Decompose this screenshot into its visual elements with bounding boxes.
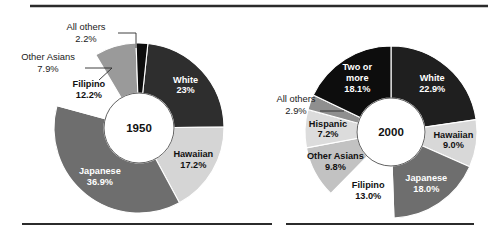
slice-label-other-asians: Other Asians — [307, 151, 364, 161]
slice-label-hispanic: Hispanic — [309, 119, 347, 129]
slice-label-white: 22.9% — [419, 84, 445, 94]
callout-value-other-asians: 7.9% — [37, 63, 58, 74]
donut-charts-svg: 1950White23%Hawaiian17.2%Japanese36.9%Fi… — [0, 0, 496, 233]
slice-label-filipino: 13.0% — [355, 191, 381, 201]
slice-label-japanese: Japanese — [79, 166, 121, 176]
callout-label-all-others: All others — [66, 21, 105, 32]
slice-label-filipino: Filipino — [352, 180, 385, 190]
slice-label-white: White — [420, 73, 445, 83]
slice-label-japanese: 36.9% — [87, 177, 113, 187]
donut-chart-2000: 2000White22.9%Hawaiian9.0%Japanese18.0%F… — [276, 46, 477, 218]
slice-label-hawaiian: 17.2% — [180, 160, 206, 170]
slice-label-japanese: Japanese — [405, 173, 447, 183]
callout-label-all-others: All others — [276, 93, 315, 104]
slice-label-two-or-more: 18.1% — [344, 84, 370, 94]
slice-label-hawaiian: Hawaiian — [433, 130, 473, 140]
callout-label-other-asians: Other Asians — [21, 51, 75, 62]
slice-label-other-asians: 9.8% — [325, 162, 346, 172]
slice-label-white: White — [173, 75, 198, 85]
slice-label-hawaiian: 9.0% — [443, 140, 464, 150]
slice-label-hawaiian: Hawaiian — [173, 149, 213, 159]
donut-center-year: 1950 — [126, 122, 152, 134]
callout-value-all-others: 2.2% — [75, 33, 96, 44]
slice-label-japanese: 18.0% — [413, 184, 439, 194]
slice-label-hispanic: 7.2% — [318, 129, 339, 139]
slice-label-two-or-more: more — [346, 73, 368, 83]
callout-value-all-others: 2.9% — [285, 105, 306, 116]
chart-figure: 1950White23%Hawaiian17.2%Japanese36.9%Fi… — [0, 0, 496, 233]
slice-label-filipino: 12.2% — [76, 90, 102, 100]
slice-label-two-or-more: Two or — [343, 62, 373, 72]
slice-label-white: 23% — [176, 85, 194, 95]
slice-label-filipino: Filipino — [73, 79, 106, 89]
donut-center-year: 2000 — [378, 126, 404, 138]
donut-chart-1950: 1950White23%Hawaiian17.2%Japanese36.9%Fi… — [21, 21, 224, 213]
